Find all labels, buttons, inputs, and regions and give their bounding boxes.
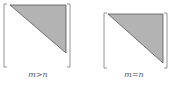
figure: m>n m=n [0, 0, 173, 87]
label-tall-matrix: m>n [28, 70, 47, 79]
matrix-tall [4, 4, 70, 67]
left-bracket [104, 13, 107, 68]
label-square-matrix: m=n [124, 70, 143, 79]
right-bracket [67, 4, 70, 67]
matrix-diagrams [0, 0, 173, 87]
right-bracket [164, 13, 167, 68]
upper-triangle-shape [108, 14, 163, 63]
matrix-square [104, 13, 167, 68]
upper-triangle-shape [10, 5, 66, 53]
left-bracket [4, 4, 7, 67]
